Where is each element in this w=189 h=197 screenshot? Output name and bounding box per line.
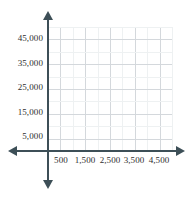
gridline-horizontal (48, 52, 172, 53)
x-axis-tick-label: 4,500 (149, 155, 170, 165)
gridline-vertical (172, 27, 173, 151)
x-axis-tick-label: 3,500 (124, 155, 145, 165)
gridline-horizontal (48, 39, 172, 40)
gridline-horizontal (48, 101, 172, 102)
y-axis-tick-label: 45,000 (18, 33, 43, 43)
coordinate-grid-chart: 45,00035,00025,00015,0005,000 5001,5002,… (0, 0, 189, 197)
gridline-horizontal (48, 114, 172, 115)
y-axis-tick-label: 25,000 (18, 82, 43, 92)
plot-area (48, 27, 172, 151)
x-axis-tick-label: 2,500 (100, 155, 121, 165)
arrow-left-icon (8, 146, 17, 156)
gridline-horizontal (48, 27, 172, 28)
arrow-up-icon (43, 11, 53, 20)
vertical-axis (47, 18, 49, 182)
gridline-horizontal (48, 64, 172, 65)
horizontal-axis (15, 150, 178, 152)
gridline-horizontal (48, 89, 172, 90)
gridline-horizontal (48, 139, 172, 140)
gridline-horizontal (48, 77, 172, 78)
y-axis-tick-label: 15,000 (18, 107, 43, 117)
gridline-horizontal (48, 126, 172, 127)
arrow-down-icon (43, 180, 53, 189)
arrow-right-icon (176, 146, 185, 156)
y-axis-tick-label: 5,000 (22, 131, 43, 141)
x-axis-tick-label: 1,500 (75, 155, 96, 165)
x-axis-tick-label: 500 (54, 155, 68, 165)
y-axis-tick-label: 35,000 (18, 58, 43, 68)
